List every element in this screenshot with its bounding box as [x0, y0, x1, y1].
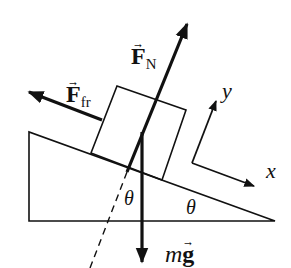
x-axis-label: x [266, 160, 276, 182]
free-body-diagram: FN Ffr mg y x θ θ [0, 0, 291, 268]
block [91, 86, 186, 180]
normal-force-symbol: F [131, 44, 146, 68]
angle-incline-label: θ [186, 197, 196, 217]
angle-vertical-label: θ [124, 188, 134, 208]
gravity-symbol: g [182, 242, 194, 266]
normal-force-subscript: N [146, 56, 157, 72]
normal-extension-dashed [90, 172, 127, 268]
gravity-mass: m [165, 241, 182, 267]
normal-force-label: FN [131, 44, 156, 72]
friction-force-label: Ffr [66, 82, 91, 110]
y-axis-arrow [192, 101, 216, 163]
y-axis-label: y [222, 80, 232, 102]
friction-force-symbol: F [66, 82, 81, 106]
friction-force-subscript: fr [81, 94, 91, 110]
diagram-graphics [0, 0, 291, 268]
x-axis-arrow [192, 163, 254, 186]
gravity-label: mg [165, 242, 194, 266]
